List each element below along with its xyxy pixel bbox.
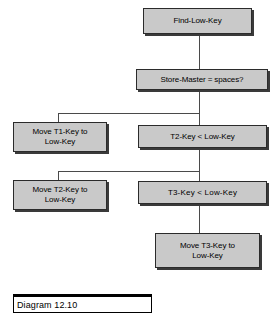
connector-find-to-store [199,34,200,69]
node-label: Store-Master = spaces? [161,75,244,85]
diagram-caption-text: Diagram 12.10 [14,300,77,310]
diagram-caption-box: Diagram 12.10 [13,294,152,313]
node-label: Move T2-Key to Low-Key [33,185,88,205]
node-label: T3-Key < Low-Key [168,188,237,198]
node-find-low-key[interactable]: Find-Low-Key [143,8,252,34]
connector-branch1-horizontal [58,113,200,114]
connector-branch1-drop [58,113,59,122]
connector-branch2-horizontal [58,171,200,172]
node-label: Find-Low-Key [173,16,221,26]
node-t3-key-compare[interactable]: T3-Key < Low-Key [138,181,267,204]
node-t2-key-compare[interactable]: T2-Key < Low-Key [138,125,267,148]
node-label: Move T1-Key to Low-Key [33,127,88,147]
node-store-master-condition[interactable]: Store-Master = spaces? [136,69,268,90]
connector-branch2-drop [58,171,59,180]
node-move-t1-key[interactable]: Move T1-Key to Low-Key [13,122,107,152]
node-label: Move T3-Key to Low-Key [180,241,235,261]
connector-t2-down-trunk [199,148,200,181]
connector-store-down-trunk [199,90,200,125]
connector-t3-to-move-t3 [199,204,200,233]
node-move-t2-key[interactable]: Move T2-Key to Low-Key [13,180,107,210]
flowchart-canvas: Find-Low-Key Store-Master = spaces? Move… [0,0,280,323]
node-move-t3-key[interactable]: Move T3-Key to Low-Key [155,233,260,268]
node-label: T2-Key < Low-Key [170,132,234,142]
